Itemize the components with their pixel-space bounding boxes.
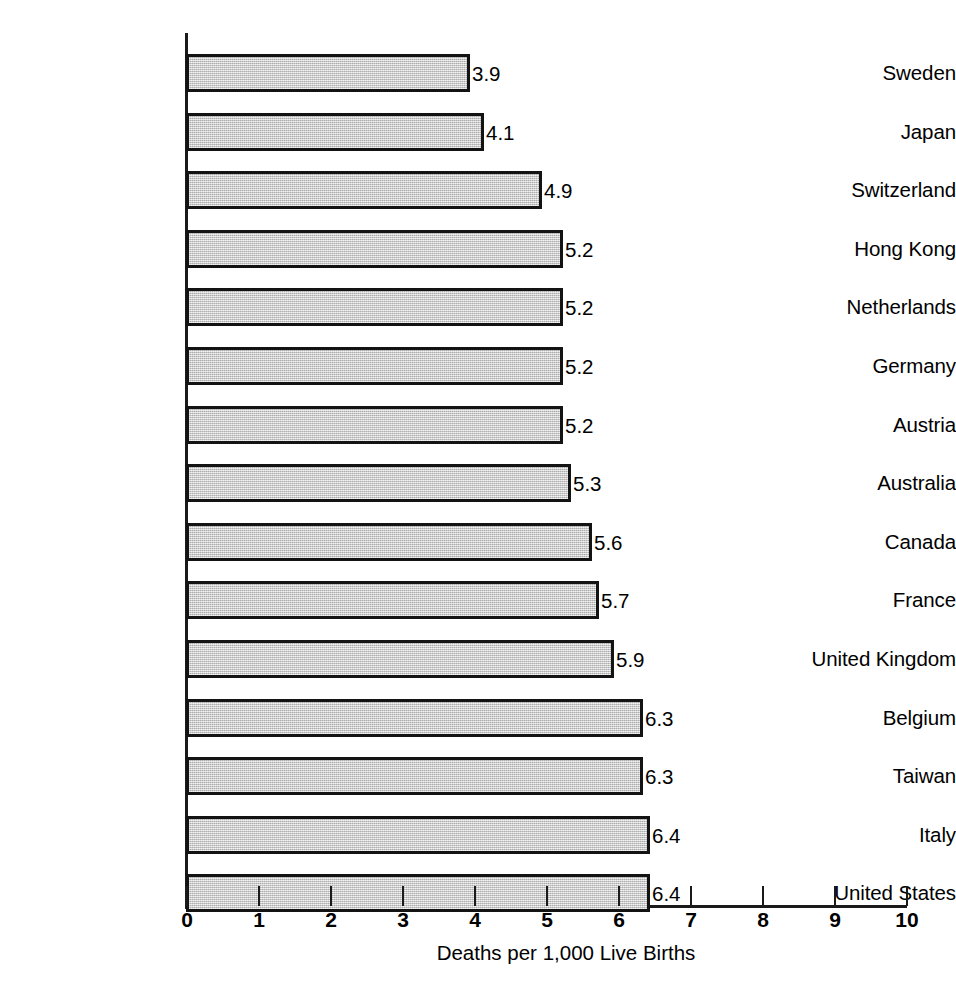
bar-row: Sweden3.9	[0, 54, 956, 92]
category-label: Sweden	[776, 54, 956, 92]
category-label: Canada	[776, 523, 956, 561]
x-tick-mark	[618, 886, 620, 906]
category-label: Germany	[776, 347, 956, 385]
category-label: Australia	[776, 464, 956, 502]
bar-value-label: 4.1	[481, 113, 515, 151]
bar-value-label: 5.7	[596, 581, 630, 619]
x-tick-label: 5	[527, 908, 567, 932]
bar-value-label: 5.2	[560, 406, 594, 444]
bar-row: United States6.4	[0, 874, 956, 912]
x-tick-mark	[546, 886, 548, 906]
bar-row: United Kingdom5.9	[0, 640, 956, 678]
bar	[186, 640, 614, 678]
x-tick-mark	[474, 886, 476, 906]
bar-row: Italy6.4	[0, 816, 956, 854]
x-tick-label: 3	[383, 908, 423, 932]
x-axis-title: Deaths per 1,000 Live Births	[0, 941, 956, 965]
bar	[186, 699, 643, 737]
bar-row: Hong Kong5.2	[0, 230, 956, 268]
category-label: Hong Kong	[776, 230, 956, 268]
bar-value-label: 6.3	[640, 699, 674, 737]
category-label: Netherlands	[776, 288, 956, 326]
x-tick-label: 2	[311, 908, 351, 932]
x-tick-mark	[906, 886, 908, 906]
category-label: France	[776, 581, 956, 619]
x-tick-label: 8	[743, 908, 783, 932]
x-tick-label: 0	[167, 908, 207, 932]
bar-row: Netherlands5.2	[0, 288, 956, 326]
x-tick-mark	[690, 886, 692, 906]
bar-value-label: 5.9	[611, 640, 645, 678]
x-tick-mark	[834, 886, 836, 906]
x-tick-mark	[330, 886, 332, 906]
bar	[186, 113, 484, 151]
bar-row: Switzerland4.9	[0, 171, 956, 209]
x-tick-label: 9	[815, 908, 855, 932]
bar-value-label: 4.9	[539, 171, 573, 209]
bar	[186, 54, 470, 92]
category-label: Italy	[776, 816, 956, 854]
bar	[186, 464, 571, 502]
x-tick-label: 10	[887, 908, 927, 932]
bar	[186, 230, 563, 268]
bar	[186, 347, 563, 385]
bar	[186, 874, 650, 912]
bar	[186, 171, 542, 209]
category-label: Austria	[776, 406, 956, 444]
x-tick-label: 4	[455, 908, 495, 932]
bar-value-label: 5.2	[560, 347, 594, 385]
category-label: United States	[776, 874, 956, 912]
bar-value-label: 6.4	[647, 816, 681, 854]
bar-value-label: 5.2	[560, 288, 594, 326]
category-label: Belgium	[776, 699, 956, 737]
x-tick-mark	[186, 886, 188, 906]
bar-row: Germany5.2	[0, 347, 956, 385]
bar-row: Taiwan6.3	[0, 757, 956, 795]
bar-value-label: 5.6	[589, 523, 623, 561]
bar	[186, 288, 563, 326]
bar-row: Australia5.3	[0, 464, 956, 502]
category-label: United Kingdom	[776, 640, 956, 678]
x-tick-label: 7	[671, 908, 711, 932]
plot-area: Sweden3.9Japan4.1Switzerland4.9Hong Kong…	[0, 0, 956, 996]
bar	[186, 406, 563, 444]
bar-value-label: 5.2	[560, 230, 594, 268]
bar-value-label: 3.9	[467, 54, 501, 92]
x-tick-mark	[762, 886, 764, 906]
category-label: Taiwan	[776, 757, 956, 795]
bar-value-label: 6.3	[640, 757, 674, 795]
category-label: Japan	[776, 113, 956, 151]
bar-row: Japan4.1	[0, 113, 956, 151]
bar	[186, 816, 650, 854]
x-tick-mark	[258, 886, 260, 906]
x-tick-label: 1	[239, 908, 279, 932]
infant-mortality-bar-chart: Sweden3.9Japan4.1Switzerland4.9Hong Kong…	[0, 0, 956, 996]
x-tick-label: 6	[599, 908, 639, 932]
bar	[186, 757, 643, 795]
bar	[186, 523, 592, 561]
bar-row: Canada5.6	[0, 523, 956, 561]
bar	[186, 581, 599, 619]
x-tick-mark	[402, 886, 404, 906]
category-label: Switzerland	[776, 171, 956, 209]
bar-value-label: 5.3	[568, 464, 602, 502]
bar-row: Austria5.2	[0, 406, 956, 444]
bar-row: Belgium6.3	[0, 699, 956, 737]
bar-row: France5.7	[0, 581, 956, 619]
bar-value-label: 6.4	[647, 874, 681, 912]
